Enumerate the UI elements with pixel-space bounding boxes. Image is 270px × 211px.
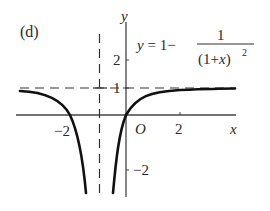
equation-numerator: 1: [217, 27, 225, 43]
y-tick-label-1: 1: [113, 80, 121, 96]
x-tick-label-2: 2: [175, 121, 183, 137]
function-graph: (d) y x O −2 2 2 1 −2 y = 1− 1 (1+x) 2: [0, 0, 270, 211]
right-branch-curve: [113, 89, 235, 194]
y-tick-label-2: 2: [113, 52, 121, 68]
panel-label: (d): [20, 23, 39, 41]
equation-denominator: (1+x): [198, 51, 231, 68]
equation-exponent: 2: [242, 47, 247, 58]
origin-label: O: [135, 121, 146, 137]
y-axis-label: y: [119, 8, 128, 24]
equation-rest: = 1−: [144, 37, 176, 53]
equation-y: y: [135, 37, 144, 53]
x-tick-label-neg2: −2: [54, 123, 70, 139]
x-axis-label: x: [229, 121, 237, 137]
y-tick-label-neg2: −2: [133, 162, 149, 178]
equation-lhs: y = 1−: [135, 37, 176, 53]
left-branch-curve: [20, 91, 86, 193]
